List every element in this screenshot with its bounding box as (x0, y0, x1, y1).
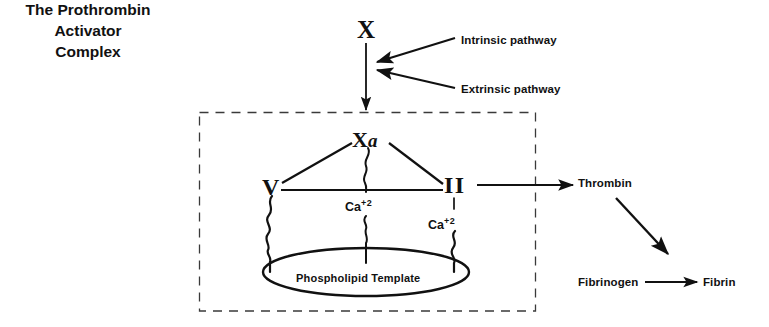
factor-ii-membrane-anchor-wave-lower (451, 231, 455, 272)
fibrin-label: Fibrin (703, 276, 736, 289)
xa-to-factor-v-connector (282, 143, 352, 183)
thrombin-to-fibrinogen-arrow (616, 198, 668, 254)
intrinsic-pathway-arrow (377, 38, 455, 62)
calcium-right-symbol: Ca (428, 218, 444, 232)
calcium-anchor-center-wave (364, 216, 367, 263)
calcium-center-symbol: Ca (345, 200, 361, 214)
fibrinogen-label: Fibrinogen (578, 276, 638, 289)
calcium-center-charge: +2 (361, 198, 372, 208)
factor-xa-label: Xa (352, 127, 377, 152)
factor-xa-subscript-glyph: a (368, 130, 378, 151)
calcium-ion-center-label: Ca+2 (345, 198, 372, 214)
extrinsic-pathway-arrow (377, 70, 455, 88)
thrombin-label: Thrombin (578, 177, 632, 190)
factor-v-membrane-anchor-wave (266, 196, 272, 272)
factor-v-label: V (262, 174, 279, 202)
intrinsic-pathway-label: Intrinsic pathway (461, 34, 557, 47)
phospholipid-template-label: Phospholipid Template (296, 272, 420, 285)
calcium-ion-right-label: Ca+2 (428, 216, 455, 232)
calcium-bridge-center-wave (364, 148, 369, 192)
factor-ii-label: II (444, 172, 466, 200)
factor-xa-main-glyph: X (352, 127, 368, 152)
calcium-right-charge: +2 (444, 216, 455, 226)
factor-x-label: X (357, 16, 375, 45)
xa-to-factor-ii-connector (389, 143, 443, 184)
coagulation-cascade-diagram: X Xa V II Ca+2 Ca+2 Intrinsic pathway Ex… (0, 0, 769, 327)
extrinsic-pathway-label: Extrinsic pathway (461, 83, 560, 96)
